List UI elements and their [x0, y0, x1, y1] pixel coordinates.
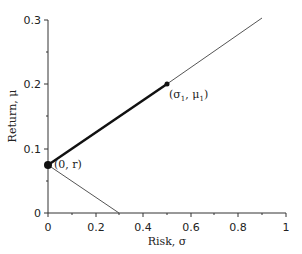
svg-text:0: 0 — [45, 221, 52, 234]
cml-bold-segment — [48, 84, 167, 165]
x-ticks — [48, 213, 286, 217]
x-axis-label: Risk, σ — [148, 235, 187, 248]
y-ticks — [44, 20, 48, 213]
label-sigma1-mu1: (σ1, μ1) — [169, 88, 208, 103]
x-tick-labels: 0 0.2 0.4 0.6 0.8 1 — [45, 221, 290, 234]
y-axis-label: Return, μ — [6, 90, 19, 143]
y-tick-labels: 0.3 0.2 0.1 0 — [24, 14, 42, 220]
svg-text:0.6: 0.6 — [182, 221, 200, 234]
svg-text:0.8: 0.8 — [229, 221, 247, 234]
label-risk-free: (0, r) — [54, 158, 82, 171]
svg-text:0.2: 0.2 — [87, 221, 105, 234]
point-risk-free — [44, 161, 52, 169]
svg-text:1: 1 — [283, 221, 290, 234]
svg-text:0.1: 0.1 — [24, 143, 42, 156]
svg-text:0: 0 — [34, 207, 41, 220]
svg-text:0.3: 0.3 — [24, 14, 42, 27]
svg-text:0.4: 0.4 — [134, 221, 152, 234]
short-line — [48, 165, 119, 213]
point-sigma1-mu1 — [165, 82, 170, 87]
svg-text:0.2: 0.2 — [24, 78, 42, 91]
chart: 0.3 0.2 0.1 0 0 0.2 0.4 0.6 0.8 1 Risk, … — [0, 0, 302, 254]
cml-extension — [167, 18, 262, 84]
